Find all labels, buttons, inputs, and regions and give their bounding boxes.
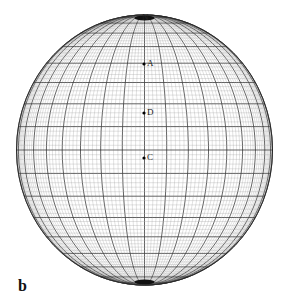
point-label-a: A [147,58,154,68]
point-c [142,156,145,159]
point-label-c: C [147,152,153,162]
stereonet-figure: N A D C b [0,0,284,307]
panel-label: b [18,277,27,295]
pole-label-n: N [142,12,149,22]
stereonet-grid [0,0,284,307]
point-label-d: D [147,107,154,117]
point-a [142,62,145,65]
point-d [142,111,145,114]
